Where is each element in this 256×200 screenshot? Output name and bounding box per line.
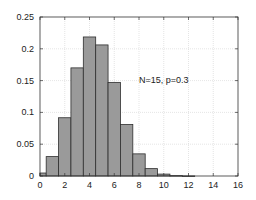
- histogram-bar: [40, 173, 46, 176]
- x-tick-label: 0: [37, 180, 42, 190]
- x-tick-label: 2: [62, 180, 67, 190]
- histogram-bar: [71, 68, 83, 176]
- x-tick-label: 4: [87, 180, 92, 190]
- x-axis-tick-labels: 0246810121416: [37, 180, 243, 190]
- x-tick-label: 14: [208, 180, 218, 190]
- histogram-bar: [108, 82, 120, 176]
- distribution-annotation: N=15, p=0.3: [139, 75, 189, 85]
- x-tick-label: 16: [233, 180, 243, 190]
- histogram-bar: [120, 124, 132, 176]
- x-tick-label: 6: [112, 180, 117, 190]
- x-tick-label: 8: [136, 180, 141, 190]
- x-tick-label: 12: [183, 180, 193, 190]
- y-axis-tick-labels: 00.050.10.150.20.25: [16, 12, 34, 181]
- histogram-bar: [59, 118, 71, 176]
- histogram-bar: [46, 157, 58, 176]
- histogram-bar: [133, 154, 145, 176]
- histogram-bar: [83, 37, 95, 176]
- y-tick-label: 0: [29, 171, 34, 181]
- histogram-chart: 0246810121416 00.050.10.150.20.25 N=15, …: [0, 0, 256, 200]
- histogram-bar: [145, 169, 157, 176]
- x-tick-label: 10: [159, 180, 169, 190]
- y-tick-label: 0.05: [16, 139, 34, 149]
- y-tick-label: 0.2: [21, 44, 34, 54]
- y-tick-label: 0.1: [21, 107, 34, 117]
- y-tick-label: 0.15: [16, 76, 34, 86]
- histogram-bar: [96, 45, 108, 176]
- y-tick-label: 0.25: [16, 12, 34, 22]
